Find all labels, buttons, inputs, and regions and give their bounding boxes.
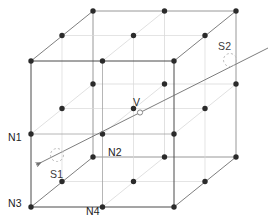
label-n4: N4: [86, 205, 100, 217]
lattice-node: [202, 33, 207, 38]
label-n3: N3: [8, 197, 22, 209]
label-s2: S2: [218, 40, 231, 52]
lattice-node: [59, 33, 64, 38]
lattice-node: [202, 179, 207, 184]
label-n1: N1: [8, 131, 22, 143]
lattice-node: [100, 58, 105, 63]
lattice-node: [162, 154, 167, 159]
lattice-node-n4: [100, 204, 105, 209]
lattice-node: [131, 33, 136, 38]
lattice-node: [90, 8, 95, 13]
lattice-node: [90, 154, 95, 159]
lattice-node: [233, 81, 238, 86]
label-v: V: [133, 96, 140, 108]
lattice-node: [171, 131, 176, 136]
label-n2: N2: [108, 146, 122, 158]
lattice-node: [202, 106, 207, 111]
lattice-node: [162, 81, 167, 86]
lattice-node: [233, 8, 238, 13]
lattice-node-n1: [28, 131, 33, 136]
sample-circle-s1: [51, 149, 64, 162]
lattice-node: [171, 58, 176, 63]
label-s1: S1: [50, 168, 63, 180]
sample-circle-s2: [224, 54, 237, 67]
lattice-node: [90, 81, 95, 86]
lattice-node: [233, 154, 238, 159]
lattice-node: [59, 106, 64, 111]
voxel-point-marker-v: [137, 110, 142, 115]
lattice-node: [131, 179, 136, 184]
lattice-node: [171, 204, 176, 209]
lattice-node: [162, 8, 167, 13]
lattice-diagram-figure: N1 N2 N3 N4 S1 S2 V: [0, 0, 273, 223]
lattice-diagram-svg: N1 N2 N3 N4 S1 S2 V: [0, 0, 273, 223]
lattice-node-n3: [28, 204, 33, 209]
lattice-node: [28, 58, 33, 63]
